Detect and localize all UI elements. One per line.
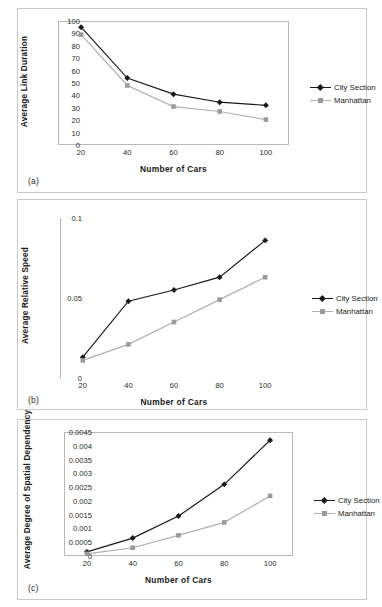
x-tick-label: 80 (215, 148, 223, 157)
x-tick-label: 60 (170, 381, 178, 390)
plot-area-b: 00.050.1 20406080100 Number of Cars Aver… (60, 218, 288, 378)
legend-a: City Section Manhattan (310, 81, 376, 107)
panel-c: 00.00050.0010.00150.0020.00250.0030.0035… (17, 419, 367, 600)
series-canvas-c (64, 432, 293, 556)
legend-label-city-section: City Section (338, 496, 380, 505)
legend-marker-square-icon (310, 96, 331, 105)
data-point-marker-square (268, 494, 273, 499)
x-tick-label: 100 (259, 381, 272, 390)
legend-entry-manhattan: Manhattan (312, 305, 378, 318)
x-tick-label: 100 (260, 148, 273, 157)
data-point-marker-square (264, 117, 269, 122)
x-tick-label: 80 (220, 559, 228, 568)
legend-label-city-section: City Section (336, 294, 378, 303)
x-axis-title-b: Number of Cars (60, 397, 288, 407)
panel-a: 0102030405060708090100 20406080100 Numbe… (17, 8, 367, 193)
legend-marker-square-icon (314, 509, 335, 518)
data-point-marker-square (263, 275, 268, 280)
legend-entry-manhattan: Manhattan (310, 94, 376, 107)
data-point-marker-diamond (171, 287, 177, 293)
legend-c: City Section Manhattan (314, 494, 380, 520)
legend-label-city-section: City Section (334, 83, 376, 92)
data-point-marker-square (81, 358, 86, 363)
x-axis-title-c: Number of Cars (64, 575, 293, 585)
x-tick-label: 20 (83, 559, 91, 568)
plot-area-a: 0102030405060708090100 20406080100 Numbe… (58, 21, 289, 145)
data-point-marker-diamond (263, 102, 269, 108)
x-axis-title-a: Number of Cars (58, 164, 289, 174)
data-point-marker-square (217, 109, 222, 114)
x-tick-label: 80 (215, 381, 223, 390)
legend-marker-diamond-icon (310, 83, 331, 92)
legend-label-manhattan: Manhattan (334, 96, 371, 105)
data-point-marker-square (217, 297, 222, 302)
x-tick-label: 60 (174, 559, 182, 568)
panel-tag-c: (c) (28, 583, 39, 593)
data-point-marker-square (126, 342, 131, 347)
legend-marker-diamond-icon (314, 496, 335, 505)
panel-b: 00.050.1 20406080100 Number of Cars Aver… (17, 199, 367, 410)
series-canvas-a (58, 21, 289, 145)
legend-entry-city-section: City Section (310, 81, 376, 94)
y-axis-title-a: Average Link Duration (20, 20, 29, 144)
x-tick-label: 60 (169, 148, 177, 157)
data-point-marker-diamond (130, 535, 136, 541)
plot-area-c: 00.00050.0010.00150.0020.00250.0030.0035… (64, 432, 293, 556)
data-point-marker-square (171, 104, 176, 109)
x-tick-label: 40 (123, 148, 131, 157)
data-point-marker-square (85, 552, 90, 557)
x-tick-label: 20 (79, 381, 87, 390)
legend-marker-square-icon (312, 307, 333, 316)
x-tick-label: 100 (264, 559, 277, 568)
x-tick-label: 40 (124, 381, 132, 390)
legend-label-manhattan: Manhattan (336, 307, 373, 316)
legend-entry-manhattan: Manhattan (314, 507, 380, 520)
data-point-marker-square (125, 83, 130, 88)
series-canvas-b (60, 218, 288, 378)
series-line (83, 240, 265, 357)
x-tick-label: 40 (128, 559, 136, 568)
y-axis-title-b: Average Relative Speed (21, 220, 30, 372)
legend-b: City Section Manhattan (312, 292, 378, 318)
legend-entry-city-section: City Section (314, 494, 380, 507)
panel-tag-a: (a) (28, 176, 39, 186)
x-tick-label: 20 (77, 148, 85, 157)
data-point-marker-diamond (171, 91, 177, 97)
figure-three-panel-line-charts: 0102030405060708090100 20406080100 Numbe… (0, 0, 382, 607)
panel-tag-b: (b) (28, 395, 39, 405)
data-point-marker-square (79, 32, 84, 37)
data-point-marker-square (172, 320, 177, 325)
data-point-marker-square (176, 533, 181, 538)
legend-label-manhattan: Manhattan (338, 509, 375, 518)
series-line (87, 496, 270, 554)
y-axis-title-c: Average Degree of Spatial Dependency (23, 409, 32, 571)
data-point-marker-diamond (217, 99, 223, 105)
legend-entry-city-section: City Section (312, 292, 378, 305)
data-point-marker-square (130, 545, 135, 550)
legend-marker-diamond-icon (312, 294, 333, 303)
data-point-marker-square (222, 520, 227, 525)
